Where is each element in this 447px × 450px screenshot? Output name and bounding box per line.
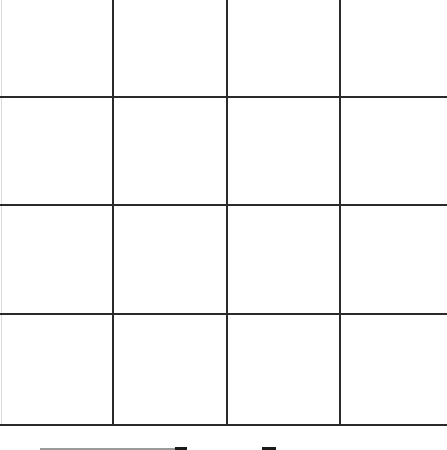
grid-vertical-line-2 xyxy=(226,0,228,425)
grid-horizontal-line-3 xyxy=(0,313,447,315)
cell-r3-c2[interactable] xyxy=(114,206,226,313)
cell-r3-c4[interactable] xyxy=(341,206,447,313)
cell-r1-c2[interactable] xyxy=(114,0,226,96)
grid-horizontal-line-2 xyxy=(0,204,447,206)
grid-vertical-line-3 xyxy=(339,0,341,425)
cell-r2-c2[interactable] xyxy=(114,98,226,204)
cell-r1-c1[interactable] xyxy=(0,0,112,96)
cell-r2-c3[interactable] xyxy=(228,98,339,204)
cell-r1-c4[interactable] xyxy=(341,0,447,96)
grid-horizontal-line-4 xyxy=(0,424,447,426)
game-board xyxy=(0,0,447,450)
grid-vertical-line-1 xyxy=(112,0,114,425)
cell-r3-c3[interactable] xyxy=(228,206,339,313)
cell-r2-c4[interactable] xyxy=(341,98,447,204)
cell-r1-c3[interactable] xyxy=(228,0,339,96)
cell-r4-c3[interactable] xyxy=(228,315,339,424)
cell-r3-c1[interactable] xyxy=(0,206,112,313)
cell-r2-c1[interactable] xyxy=(0,98,112,204)
grid-horizontal-line-1 xyxy=(0,96,447,98)
cell-r4-c1[interactable] xyxy=(0,315,112,424)
cell-r4-c4[interactable] xyxy=(341,315,447,424)
cell-r4-c2[interactable] xyxy=(114,315,226,424)
